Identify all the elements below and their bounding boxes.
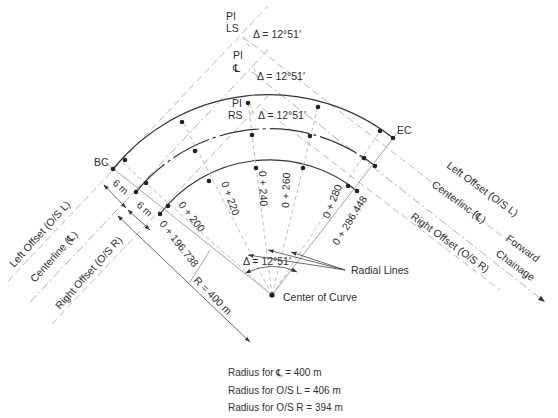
left-offset-arc — [113, 95, 393, 169]
svg-text:0 + 260: 0 + 260 — [279, 172, 292, 208]
svg-text:0 + 280: 0 + 280 — [320, 182, 344, 219]
back-tangent-labels: Left Offset (O/S L) Centerline (℄) Right… — [7, 198, 125, 311]
svg-text:Δ = 12°51′: Δ = 12°51′ — [257, 70, 305, 82]
svg-text:Δ = 12°51′: Δ = 12°51′ — [253, 28, 301, 40]
svg-text:PI: PI — [233, 49, 243, 61]
svg-text:6 m: 6 m — [135, 199, 155, 218]
svg-text:℄: ℄ — [232, 62, 240, 74]
svg-text:0 + 200: 0 + 200 — [176, 199, 207, 234]
svg-text:RS: RS — [228, 109, 243, 121]
offset-dims: 6 m 6 m — [104, 177, 154, 230]
bc-label: BC — [94, 156, 109, 168]
svg-text:Left Offset (O/S L): Left Offset (O/S L) — [445, 159, 521, 219]
center-of-curve-label: Center of Curve — [283, 291, 357, 303]
svg-text:0 + 240: 0 + 240 — [257, 171, 270, 207]
curve-diagram: PI LS Δ = 12°51′ PI ℄ Δ = 12°51′ PI RS Δ… — [0, 0, 558, 418]
svg-text:Radial Lines: Radial Lines — [351, 264, 409, 276]
svg-text:PI: PI — [226, 10, 236, 22]
radius-notes: Radius for ℄ = 400 m Radius for O/S L = … — [228, 364, 343, 417]
svg-text:Δ = 12°51′: Δ = 12°51′ — [243, 255, 291, 267]
svg-text:PI: PI — [232, 97, 242, 109]
svg-text:LS: LS — [226, 22, 239, 34]
svg-text:R = 400 m: R = 400 m — [192, 274, 235, 317]
note-right-offset: Radius for O/S R = 394 m — [228, 399, 343, 417]
radius-dim: R = 400 m — [118, 216, 250, 342]
note-centerline: Radius for ℄ = 400 m — [228, 364, 343, 382]
central-angle: Δ = 12°51′ — [243, 255, 297, 273]
forward-tangent-labels: Left Offset (O/S L) Centerlinc (℄) Right… — [409, 159, 542, 283]
ec-label: EC — [397, 124, 412, 136]
note-left-offset: Radius for O/S L = 406 m — [228, 382, 343, 400]
svg-text:Δ = 12°51′: Δ = 12°51′ — [258, 109, 306, 121]
center-point — [269, 292, 274, 297]
svg-text:Left Offset (O/S L): Left Offset (O/S L) — [7, 198, 73, 269]
